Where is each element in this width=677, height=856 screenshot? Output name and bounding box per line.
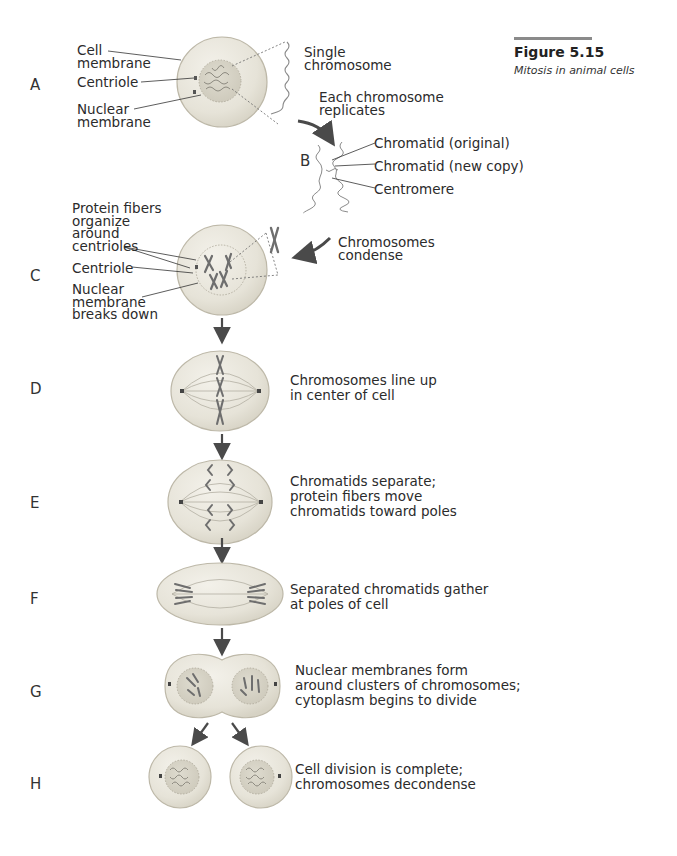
cell-d [171,351,269,431]
label-centromere: Centromere [374,183,454,196]
label-single-chromosome: Single chromosome [304,46,392,71]
stage-h: H [30,775,41,793]
stage-f: F [30,590,39,608]
cell-h-right [230,746,292,808]
label-nuclear-membrane-breaks: Nuclear membrane breaks down [72,283,158,321]
figure-number: Figure 5.15 [514,44,604,60]
figure-caption: Mitosis in animal cells [514,64,635,77]
figure-rule [514,37,592,40]
cell-f [157,563,283,625]
cell-e [168,460,272,544]
desc-stage-d: Chromosomes line up in center of cell [290,373,437,403]
label-chromatid-new-copy: Chromatid (new copy) [374,160,524,173]
label-chromosomes-condense: Chromosomes condense [338,236,435,261]
cell-a [177,37,289,127]
desc-stage-f: Separated chromatids gather at poles of … [290,582,488,612]
stage-d: D [30,380,42,398]
cell-g [165,654,280,717]
stage-e: E [30,494,39,512]
replicated-chromosome-b [304,142,349,213]
label-chromatid-original: Chromatid (original) [374,137,510,150]
label-protein-fibers: Protein fibers organize around centriole… [72,202,162,252]
cell-h-left [149,746,211,808]
cell-c [177,225,278,315]
stage-g: G [30,683,42,701]
label-cell-membrane: Cell membrane [77,44,151,69]
label-centriole-a: Centriole [77,76,138,89]
stage-a: A [30,76,40,94]
label-each-chromosome-replicates: Each chromosome replicates [319,91,444,116]
desc-stage-e: Chromatids separate; protein fibers move… [290,474,457,519]
desc-stage-h: Cell division is complete; chromosomes d… [295,762,476,792]
stage-b: B [300,152,310,170]
desc-stage-g: Nuclear membranes form around clusters o… [295,663,521,708]
label-centriole-c: Centriole [72,262,133,275]
stage-c: C [30,267,40,285]
label-nuclear-membrane: Nuclear membrane [77,103,151,128]
